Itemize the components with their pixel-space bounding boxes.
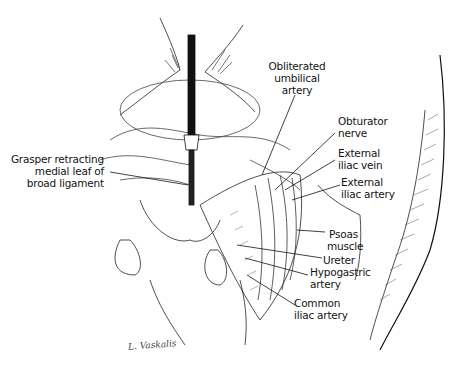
label-line: Psoas	[329, 228, 363, 240]
grasper-hub	[184, 135, 199, 150]
leader-common-iliac	[247, 275, 295, 305]
label-line: iliac artery	[294, 309, 348, 321]
leader-external-iliac-artery	[292, 185, 340, 200]
label-line: artery	[310, 278, 371, 290]
leader-obturator-nerve	[275, 133, 335, 190]
window-hatching	[230, 211, 258, 290]
label-line: Obliterated	[262, 60, 332, 72]
ovary-left	[115, 240, 140, 275]
grasper-shaft	[188, 35, 195, 135]
bladder-outline	[140, 200, 220, 241]
upper-hatch-left	[165, 48, 180, 72]
leader-obliterated-umbilical	[262, 95, 295, 175]
abdominal-wall-outer	[380, 55, 444, 350]
leader-hypogastric	[245, 258, 308, 275]
upper-tissue-left	[120, 18, 180, 115]
label-obliterated-umbilical-artery: Obliterated umbilical artery	[262, 60, 332, 96]
label-external-iliac-artery: External iliac artery	[341, 176, 395, 200]
label-common-iliac-artery: Common iliac artery	[294, 297, 348, 321]
label-line: Hypogastric	[310, 266, 371, 278]
label-ureter: Ureter	[323, 254, 355, 266]
label-line: medial leaf of	[4, 165, 104, 177]
label-line: External	[341, 176, 395, 188]
vessel-bundle	[255, 175, 296, 300]
leader-external-iliac-vein	[285, 160, 335, 190]
leader-grasper	[110, 172, 188, 185]
label-obturator-nerve: Obturator nerve	[338, 115, 388, 139]
leader-psoas	[297, 230, 325, 232]
label-psoas-muscle: Psoas muscle	[329, 228, 363, 252]
upper-hatch-right	[212, 50, 232, 74]
grasper-tip	[189, 150, 194, 205]
retroperitoneal-window	[200, 172, 302, 320]
abdominal-wall-inner	[370, 110, 425, 340]
label-line: artery	[262, 84, 332, 96]
label-line: Ureter	[323, 254, 355, 266]
label-external-iliac-vein: External iliac vein	[338, 147, 383, 171]
label-line: umbilical	[262, 72, 332, 84]
leader-ureter	[237, 245, 322, 258]
label-line: nerve	[338, 127, 388, 139]
label-line: muscle	[327, 240, 363, 252]
label-line: Common	[294, 297, 348, 309]
label-line: Grasper retracting	[4, 153, 104, 165]
label-line: broad ligament	[4, 177, 104, 189]
tissue-strands	[100, 128, 300, 190]
label-line: iliac vein	[338, 159, 383, 171]
label-line: External	[338, 147, 383, 159]
label-grasper: Grasper retracting medial leaf of broad …	[4, 153, 104, 189]
wall-hatching	[380, 114, 438, 300]
label-line: iliac artery	[341, 188, 395, 200]
label-hypogastric-artery: Hypogastric artery	[310, 266, 371, 290]
lower-pelvis	[150, 280, 246, 345]
label-line: Obturator	[338, 115, 388, 127]
